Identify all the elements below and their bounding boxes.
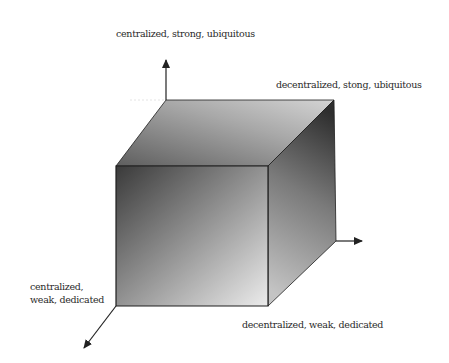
cube-svg <box>0 0 449 363</box>
label-top: centralized, strong, ubiquitous <box>116 27 255 40</box>
label-bottom-left: centralized, weak, dedicated <box>30 280 104 306</box>
cube-diagram: centralized, strong, ubiquitous decentra… <box>0 0 449 363</box>
cube-front-face <box>116 166 268 306</box>
depth-axis-arrow <box>84 306 116 348</box>
label-top-right: decentralized, stong, ubiquitous <box>276 78 422 91</box>
label-bottom-right: decentralized, weak, dedicated <box>242 318 383 331</box>
